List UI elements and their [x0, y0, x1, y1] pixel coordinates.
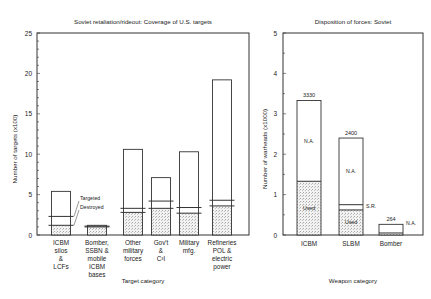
x-tick-label: mobile: [88, 255, 107, 262]
destroyed-fill: [152, 208, 171, 235]
y-tick-label: 25: [25, 30, 33, 37]
x-axis-label: Target category: [122, 277, 166, 284]
coverage-chart: [37, 33, 249, 235]
bar-group: [49, 191, 74, 235]
x-tick-label: Bomber,: [85, 239, 109, 246]
x-tick-label: SSBN &: [85, 247, 109, 254]
plot-frame: [37, 33, 249, 235]
bar-group: [379, 224, 403, 235]
y-tick-label: 5: [273, 30, 277, 37]
y-axis-label: Number of targets (x100): [11, 115, 18, 184]
bar-group: [177, 152, 202, 235]
x-tick-label: power: [213, 263, 231, 271]
x-tick-label: ICBM: [53, 239, 69, 246]
annotation-targeted: Targeted: [80, 195, 100, 201]
y-tick-label: 5: [28, 191, 32, 198]
used-label: Used: [345, 219, 357, 225]
destroyed-fill: [213, 206, 232, 235]
y-tick-label: 4: [273, 70, 277, 77]
x-tick-label: ICBM: [89, 263, 105, 270]
bar-group: [85, 225, 110, 235]
x-tick-label: &: [59, 255, 64, 262]
x-tick-label: Refineries: [208, 239, 237, 246]
y-tick-label: 10: [25, 151, 33, 158]
destroyed-fill: [52, 225, 71, 235]
x-tick-label: SLBM: [342, 240, 359, 247]
bar-total-label: 2400: [345, 130, 357, 136]
x-tick-label: silos: [55, 247, 68, 254]
x-tick-label: Bomber: [380, 240, 403, 247]
x-tick-label: C³I: [157, 255, 166, 262]
x-tick-label: forces: [124, 255, 141, 262]
y-axis-label: Number of warheads (x1000): [261, 109, 268, 189]
na-label: N.A.: [406, 220, 416, 226]
x-tick-label: Military: [179, 239, 200, 247]
x-tick-label: Gov't: [154, 239, 169, 246]
used-label: Used: [303, 205, 315, 211]
x-tick-label: POL &: [213, 247, 232, 254]
y-tick-label: 0: [28, 232, 32, 239]
chart-canvas: Soviet retaliation/rideout: Coverage of …: [0, 0, 431, 299]
x-tick-label: electric: [212, 255, 233, 262]
na-label: N.A.: [304, 138, 314, 144]
x-tick-label: ICBM: [301, 240, 317, 247]
y-tick-label: 20: [25, 70, 33, 77]
annotation-destroyed: Destroyed: [80, 204, 104, 210]
bar-total-label: 264: [386, 216, 395, 222]
chart-title: Disposition of forces: Soviet: [315, 18, 392, 25]
bar-group: [210, 80, 235, 235]
y-tick-label: 15: [25, 110, 33, 117]
y-tick-label: 2: [273, 151, 277, 158]
y-tick-label: 3: [273, 110, 277, 117]
x-tick-label: bases: [88, 271, 105, 278]
na-label: N.A.: [346, 168, 356, 174]
x-axis-label: Weapon category: [329, 277, 378, 284]
chart-title: Soviet retaliation/rideout: Coverage of …: [74, 18, 212, 25]
y-tick-label: 1: [273, 191, 277, 198]
bar-group: [149, 178, 174, 235]
x-tick-label: Other: [125, 239, 142, 246]
destroyed-fill: [88, 227, 107, 235]
y-tick-label: 0: [273, 232, 277, 239]
destroyed-fill: [180, 213, 199, 235]
sr-label: S.R.: [366, 203, 376, 209]
x-tick-label: LCFs: [53, 263, 68, 270]
bar-group: [121, 149, 146, 235]
bar-total-label: 3330: [303, 92, 315, 98]
x-tick-label: &: [159, 247, 164, 254]
destroyed-fill: [124, 212, 143, 235]
bar-group: [297, 100, 321, 235]
x-tick-label: military: [123, 247, 144, 255]
x-tick-label: mfg.: [183, 247, 196, 255]
